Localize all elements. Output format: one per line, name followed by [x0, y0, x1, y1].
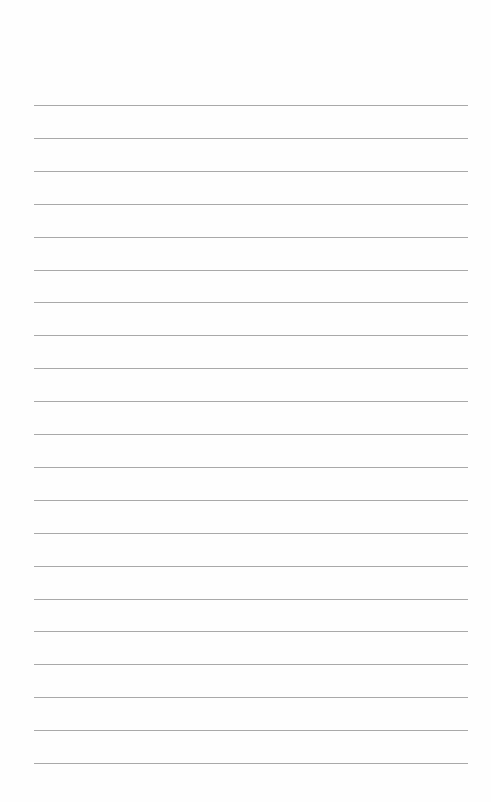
ruled-line — [34, 270, 468, 271]
ruled-line — [34, 533, 468, 534]
ruled-line — [34, 763, 468, 764]
ruled-line — [34, 204, 468, 205]
ruled-line — [34, 138, 468, 139]
ruled-line — [34, 171, 468, 172]
ruled-line — [34, 566, 468, 567]
ruled-line — [34, 664, 468, 665]
ruled-line — [34, 335, 468, 336]
ruled-line — [34, 401, 468, 402]
ruled-line — [34, 697, 468, 698]
ruled-line — [34, 302, 468, 303]
ruled-line — [34, 500, 468, 501]
ruled-line — [34, 730, 468, 731]
ruled-line — [34, 237, 468, 238]
ruled-line — [34, 599, 468, 600]
ruled-line — [34, 434, 468, 435]
ruled-line — [34, 631, 468, 632]
ruled-line — [34, 368, 468, 369]
ruled-line — [34, 105, 468, 106]
lined-paper-sheet — [0, 0, 491, 802]
ruled-line — [34, 467, 468, 468]
